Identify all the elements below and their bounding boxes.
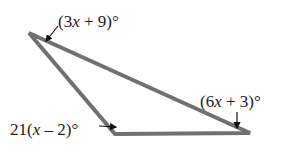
angle-expr-prefix: (3 — [58, 12, 72, 31]
angle-expr-prefix: (6 — [200, 92, 214, 111]
angle-label-bottom-right: (6x + 3)° — [200, 93, 261, 110]
angle-variable: x — [72, 12, 80, 31]
angle-expr-prefix: 21( — [10, 120, 33, 139]
angle-expr-suffix: + 9)° — [80, 12, 119, 31]
angle-label-bottom-left: 21(x – 2)° — [10, 121, 78, 138]
angle-label-top-left: (3x + 9)° — [58, 13, 119, 30]
angle-expr-suffix: + 3)° — [222, 92, 261, 111]
arrow-bottom-left — [99, 126, 116, 127]
angle-variable: x — [214, 92, 222, 111]
arrow-top-left — [46, 26, 58, 41]
triangle-shape — [29, 33, 250, 134]
angle-expr-suffix: – 2)° — [40, 120, 78, 139]
